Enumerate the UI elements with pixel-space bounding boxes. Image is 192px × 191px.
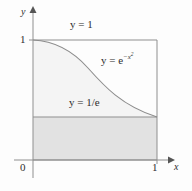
label-curve-equation: y = e−x2: [101, 51, 133, 66]
tick-label-y-1: 1: [20, 33, 26, 45]
label-y-equals-one-over-e: y = 1/e: [69, 96, 100, 108]
y-axis-arrowhead-icon: [30, 6, 37, 13]
tick-label-x-1: 1: [152, 161, 158, 173]
label-axis-y: y: [21, 6, 25, 17]
rectangle-below-one-over-e-shading: [33, 117, 157, 160]
tick-label-origin: 0: [20, 161, 26, 173]
label-y-equals-1: y = 1: [70, 18, 93, 30]
label-curve-exponent: −x2: [123, 53, 133, 60]
label-axis-x: x: [174, 161, 178, 172]
figure-container: y = 1 y = e−x2 y = 1/e y x 1 1 0: [0, 0, 192, 191]
label-curve-base: y = e: [101, 54, 123, 66]
